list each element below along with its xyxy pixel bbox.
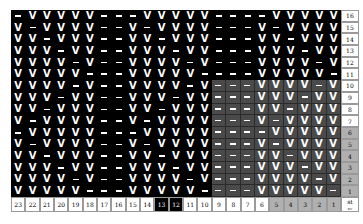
- purl-stitch-icon: [212, 162, 226, 174]
- knit-stitch-icon: V: [25, 33, 39, 45]
- purl-stitch-icon: [327, 68, 341, 80]
- purl-stitch-icon: [212, 80, 226, 92]
- purl-stitch-icon: [97, 80, 111, 92]
- knit-stitch-icon: V: [54, 80, 68, 92]
- knit-stitch-icon: V: [11, 92, 25, 104]
- row-number-label: 15: [341, 22, 359, 34]
- purl-stitch-icon: [183, 57, 197, 69]
- row-number-label: 14: [341, 33, 359, 45]
- knit-stitch-icon: V: [40, 92, 54, 104]
- knit-stitch-icon: V: [255, 92, 269, 104]
- purl-stitch-icon: [54, 45, 68, 57]
- purl-stitch-icon: [97, 104, 111, 116]
- knit-stitch-icon: V: [197, 127, 211, 139]
- purl-stitch-icon: [54, 162, 68, 174]
- knit-stitch-icon: V: [327, 139, 341, 151]
- knit-stitch-icon: V: [126, 174, 140, 186]
- purl-stitch-icon: [111, 104, 125, 116]
- purl-stitch-icon: [111, 45, 125, 57]
- column-number-label: 19: [68, 197, 82, 212]
- knit-stitch-icon: V: [327, 57, 341, 69]
- knit-stitch-icon: V: [126, 162, 140, 174]
- purl-stitch-icon: [212, 127, 226, 139]
- knit-stitch-icon: V: [197, 57, 211, 69]
- knit-stitch-icon: V: [54, 127, 68, 139]
- purl-stitch-icon: [241, 68, 255, 80]
- purl-stitch-icon: [11, 10, 25, 22]
- knit-stitch-icon: V: [183, 45, 197, 57]
- row-number-label: 5: [341, 139, 359, 151]
- knit-stitch-icon: V: [126, 104, 140, 116]
- purl-stitch-icon: [327, 185, 341, 197]
- column-number-label: 1: [327, 197, 341, 212]
- knit-stitch-icon: V: [269, 150, 283, 162]
- knit-stitch-icon: V: [312, 68, 326, 80]
- knit-stitch-icon: V: [312, 104, 326, 116]
- knit-stitch-icon: V: [298, 104, 312, 116]
- column-number-label: 20: [54, 197, 68, 212]
- knit-stitch-icon: V: [68, 115, 82, 127]
- knit-stitch-icon: V: [11, 33, 25, 45]
- knit-stitch-icon: V: [11, 104, 25, 116]
- knit-stitch-icon: V: [284, 92, 298, 104]
- knit-stitch-icon: V: [312, 10, 326, 22]
- knit-stitch-icon: V: [11, 45, 25, 57]
- row-number-label: 2: [341, 174, 359, 186]
- knit-stitch-icon: V: [298, 33, 312, 45]
- knit-stitch-icon: V: [25, 57, 39, 69]
- knit-stitch-icon: V: [25, 68, 39, 80]
- purl-stitch-icon: [54, 92, 68, 104]
- purl-stitch-icon: [169, 162, 183, 174]
- row-number-label: 7: [341, 115, 359, 127]
- knit-stitch-icon: V: [140, 185, 154, 197]
- column-number-label: 11: [183, 197, 197, 212]
- knit-stitch-icon: V: [68, 104, 82, 116]
- row-number-label: 8: [341, 104, 359, 116]
- purl-stitch-icon: [97, 150, 111, 162]
- knit-stitch-icon: V: [154, 22, 168, 34]
- row-number-label: 6: [341, 127, 359, 139]
- knit-stitch-icon: V: [154, 139, 168, 151]
- knit-stitch-icon: V: [154, 115, 168, 127]
- knit-stitch-icon: V: [169, 68, 183, 80]
- knit-stitch-icon: V: [312, 45, 326, 57]
- knit-stitch-icon: V: [154, 162, 168, 174]
- knit-stitch-icon: V: [68, 185, 82, 197]
- knit-stitch-icon: V: [68, 162, 82, 174]
- knit-stitch-icon: V: [327, 33, 341, 45]
- purl-stitch-icon: [269, 22, 283, 34]
- knit-stitch-icon: V: [327, 115, 341, 127]
- knit-stitch-icon: V: [169, 57, 183, 69]
- knit-stitch-icon: V: [40, 185, 54, 197]
- knit-stitch-icon: V: [140, 45, 154, 57]
- column-number-label: 15: [126, 197, 140, 212]
- purl-stitch-icon: [212, 10, 226, 22]
- purl-stitch-icon: [241, 185, 255, 197]
- knit-stitch-icon: V: [183, 68, 197, 80]
- column-number-label: 10: [197, 197, 211, 212]
- knit-stitch-icon: V: [269, 104, 283, 116]
- knit-stitch-icon: V: [83, 139, 97, 151]
- knit-stitch-icon: V: [183, 150, 197, 162]
- knit-stitch-icon: V: [197, 92, 211, 104]
- knit-stitch-icon: V: [126, 22, 140, 34]
- knit-stitch-icon: V: [255, 139, 269, 151]
- column-number-label: 5: [269, 197, 283, 212]
- knit-stitch-icon: V: [183, 10, 197, 22]
- knit-stitch-icon: V: [126, 115, 140, 127]
- purl-stitch-icon: [226, 22, 240, 34]
- column-number-label: 13: [154, 197, 168, 212]
- column-number-label: 14: [140, 197, 154, 212]
- knit-stitch-icon: V: [298, 185, 312, 197]
- knit-stitch-icon: V: [83, 33, 97, 45]
- purl-stitch-icon: [111, 92, 125, 104]
- knit-stitch-icon: V: [54, 115, 68, 127]
- purl-stitch-icon: [83, 185, 97, 197]
- knit-stitch-icon: V: [40, 80, 54, 92]
- column-number-label: 8: [226, 197, 240, 212]
- purl-stitch-icon: [154, 33, 168, 45]
- knit-stitch-icon: V: [197, 33, 211, 45]
- knit-stitch-icon: V: [68, 22, 82, 34]
- purl-stitch-icon: [111, 115, 125, 127]
- knit-stitch-icon: V: [327, 45, 341, 57]
